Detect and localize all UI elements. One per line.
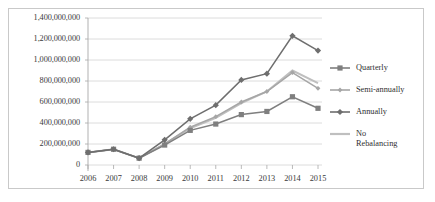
gridlines (88, 18, 322, 165)
y-axis-tick-label: 1,200,000,000 (2, 34, 80, 43)
y-axis-tick-label: 400,000,000 (2, 118, 80, 127)
legend-markers (330, 65, 350, 134)
y-axis-tick-label: 1,000,000,000 (2, 55, 80, 64)
y-axis-tick-label: 1,400,000,000 (2, 13, 80, 22)
legend-label: Annually (356, 107, 387, 117)
data-series-group (85, 33, 321, 162)
x-axis-tick-label: 2011 (203, 174, 229, 183)
x-axis-tick-label: 2012 (228, 174, 254, 183)
legend-label: Quarterly (356, 63, 388, 73)
x-axis-tick-label: 2013 (254, 174, 280, 183)
x-axis-tick-label: 2015 (305, 174, 331, 183)
legend-label: NoRebalancing (356, 129, 397, 149)
y-axis-tick-label: 800,000,000 (2, 76, 80, 85)
x-axis-tick-label: 2006 (75, 174, 101, 183)
y-axis-tick-label: 200,000,000 (2, 139, 80, 148)
legend-label: Semi-annually (356, 85, 404, 95)
y-axis-tick-label: 0 (2, 160, 80, 169)
x-axis-tick-label: 2014 (279, 174, 305, 183)
x-axis-tick-label: 2008 (126, 174, 152, 183)
x-axis-tick-label: 2009 (152, 174, 178, 183)
legend-label-line2: Rebalancing (356, 139, 397, 149)
x-axis-ticks (88, 165, 318, 169)
line-chart: 1,400,000,0001,200,000,0001,000,000,0008… (0, 0, 435, 202)
x-axis-tick-label: 2007 (101, 174, 127, 183)
x-axis-tick-label: 2010 (177, 174, 203, 183)
y-axis-tick-label: 600,000,000 (2, 97, 80, 106)
